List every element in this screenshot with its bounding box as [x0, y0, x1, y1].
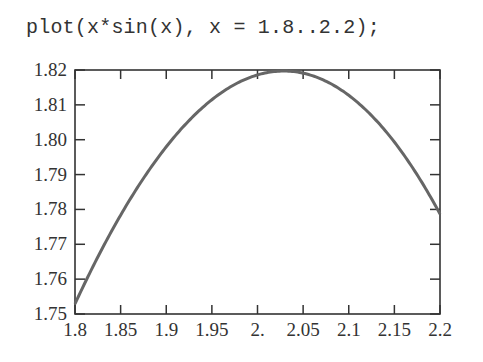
y-tick-label: 1.78	[34, 198, 67, 219]
x-tick-label: 2.	[250, 319, 264, 340]
y-tick-label: 1.80	[34, 129, 67, 150]
x-tick-label: 1.95	[195, 319, 228, 340]
y-tick-label: 1.75	[34, 303, 67, 324]
x-axis-ticks: 1.81.851.91.952.2.052.12.152.2	[63, 70, 452, 340]
y-axis-ticks: 1.751.761.771.781.791.801.811.82	[34, 59, 440, 324]
x-tick-label: 1.9	[154, 319, 178, 340]
x-tick-label: 2.15	[378, 319, 411, 340]
plot-area: 1.81.851.91.952.2.052.12.152.2 1.751.761…	[0, 0, 483, 362]
y-tick-label: 1.79	[34, 164, 67, 185]
x-tick-label: 2.05	[287, 319, 320, 340]
y-tick-label: 1.77	[34, 233, 67, 254]
x-tick-label: 1.85	[104, 319, 137, 340]
axis-frame	[75, 70, 440, 314]
function-curve	[75, 71, 440, 304]
x-tick-label: 2.1	[337, 319, 361, 340]
y-tick-label: 1.81	[34, 94, 67, 115]
x-tick-label: 2.2	[428, 319, 452, 340]
y-tick-label: 1.76	[34, 268, 67, 289]
y-tick-label: 1.82	[34, 59, 67, 80]
